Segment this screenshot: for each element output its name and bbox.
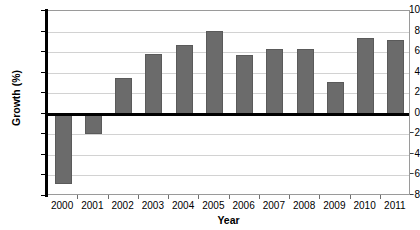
y-axis-tick	[41, 174, 46, 175]
x-axis-tick-label: 2011	[378, 200, 412, 211]
bar	[236, 55, 253, 114]
bar	[55, 114, 72, 184]
gridline	[48, 52, 409, 53]
x-axis-tick	[319, 195, 320, 199]
x-axis-tick	[77, 195, 78, 199]
x-axis-tick	[108, 195, 109, 199]
y-axis-title: Growth (%)	[10, 38, 22, 158]
y-axis-tick	[41, 10, 46, 11]
gridline	[48, 175, 409, 176]
bar	[115, 78, 132, 114]
x-axis-tick	[168, 195, 169, 199]
x-axis-tick-label: 2002	[106, 200, 140, 211]
x-axis-tick	[289, 195, 290, 199]
gridline	[48, 134, 409, 135]
x-axis-tick	[259, 195, 260, 199]
y-axis-tick	[41, 31, 46, 32]
x-axis-tick-label: 2006	[227, 200, 261, 211]
gridline	[48, 32, 409, 33]
x-axis-tick-label: 2008	[287, 200, 321, 211]
y-axis-tick	[41, 133, 46, 134]
gridline	[48, 155, 409, 156]
bar	[387, 40, 404, 114]
x-axis-tick	[350, 195, 351, 199]
x-axis-tick-label: 2005	[196, 200, 230, 211]
x-axis-tick	[380, 195, 381, 199]
y-axis-tick	[41, 113, 46, 114]
zero-baseline	[47, 113, 409, 116]
x-axis-tick-label: 2007	[257, 200, 291, 211]
x-axis-tick-label: 2010	[348, 200, 382, 211]
x-axis-tick-label: 2009	[317, 200, 351, 211]
bar	[176, 45, 193, 114]
x-axis-tick-label: 2000	[45, 200, 79, 211]
bar	[357, 38, 374, 114]
x-axis-tick-label: 2004	[166, 200, 200, 211]
bar	[145, 54, 162, 114]
y-axis-tick	[41, 51, 46, 52]
y-axis-tick	[41, 92, 46, 93]
y-axis-tick	[41, 154, 46, 155]
x-axis-tick	[198, 195, 199, 199]
bar	[327, 82, 344, 114]
bar	[266, 49, 283, 114]
bar	[85, 114, 102, 135]
plot-area	[47, 10, 410, 195]
y-axis-tick	[41, 72, 46, 73]
bar	[297, 49, 314, 114]
x-axis-tick-label: 2001	[75, 200, 109, 211]
x-axis-tick	[138, 195, 139, 199]
bar-chart: Growth (%) 1086420−2−4−6−8 2000200120022…	[0, 0, 420, 230]
y-axis-line	[45, 9, 48, 197]
gridline	[48, 93, 409, 94]
y-axis-tick	[41, 195, 46, 196]
bar	[206, 31, 223, 114]
gridline	[48, 73, 409, 74]
x-axis-title: Year	[47, 214, 410, 226]
x-axis-tick	[229, 195, 230, 199]
x-axis-tick-label: 2003	[136, 200, 170, 211]
